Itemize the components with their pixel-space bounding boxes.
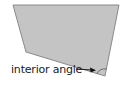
interior-angle-label: interior angle — [11, 63, 82, 76]
